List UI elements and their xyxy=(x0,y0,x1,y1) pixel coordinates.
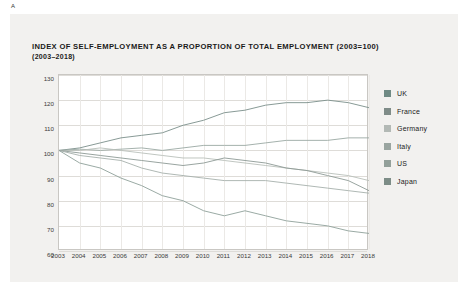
x-tick-label: 2012 xyxy=(237,252,251,259)
legend-item-us[interactable]: US xyxy=(384,160,464,167)
legend-swatch-icon xyxy=(384,90,391,97)
y-tick-label: 120 xyxy=(44,100,54,107)
x-tick-label: 2009 xyxy=(175,252,189,259)
y-tick-label: 70 xyxy=(47,225,54,232)
legend-swatch-icon xyxy=(384,178,391,185)
legend-item-japan[interactable]: Japan xyxy=(384,178,464,185)
x-tick-label: 2006 xyxy=(113,252,127,259)
x-tick-label: 2015 xyxy=(299,252,313,259)
series-layer xyxy=(59,75,369,251)
legend-item-germany[interactable]: Germany xyxy=(384,125,464,132)
chart-title: INDEX OF SELF-EMPLOYMENT AS A PROPORTION… xyxy=(32,41,432,52)
chart-subtitle: (2003–2018) xyxy=(32,53,75,60)
series-line-uk xyxy=(59,100,369,150)
figure-label: A xyxy=(11,3,15,9)
series-line-japan xyxy=(59,150,369,233)
plot-frame xyxy=(58,74,368,250)
legend-label: Japan xyxy=(397,178,417,185)
plot-area: 60708090100110120130 2003200420052006200… xyxy=(32,70,372,270)
legend-label: Italy xyxy=(397,143,411,150)
x-tick-label: 2016 xyxy=(320,252,334,259)
gridline-x xyxy=(369,75,370,249)
x-tick-label: 2007 xyxy=(134,252,148,259)
chart-legend: UKFranceGermanyItalyUSJapan xyxy=(384,90,464,195)
x-tick-label: 2003 xyxy=(51,252,65,259)
legend-label: US xyxy=(397,160,407,167)
legend-swatch-icon xyxy=(384,160,391,167)
series-line-us xyxy=(59,150,369,193)
x-tick-label: 2010 xyxy=(196,252,210,259)
y-tick-label: 80 xyxy=(47,200,54,207)
y-tick-label: 130 xyxy=(44,75,54,82)
x-tick-label: 2017 xyxy=(340,252,354,259)
series-line-germany xyxy=(59,148,369,181)
legend-swatch-icon xyxy=(384,125,391,132)
legend-label: France xyxy=(397,108,420,115)
legend-swatch-icon xyxy=(384,108,391,115)
y-tick-label: 110 xyxy=(44,125,54,132)
x-axis: 2003200420052006200720082009201020112012… xyxy=(58,250,368,264)
y-axis: 60708090100110120130 xyxy=(32,74,54,250)
legend-swatch-icon xyxy=(384,143,391,150)
x-tick-label: 2004 xyxy=(72,252,86,259)
x-tick-label: 2013 xyxy=(258,252,272,259)
y-tick-label: 100 xyxy=(44,150,54,157)
x-tick-label: 2005 xyxy=(92,252,106,259)
legend-item-italy[interactable]: Italy xyxy=(384,143,464,150)
legend-label: UK xyxy=(397,90,407,97)
legend-item-france[interactable]: France xyxy=(384,108,464,115)
y-tick-label: 90 xyxy=(47,175,54,182)
x-tick-label: 2018 xyxy=(361,252,375,259)
x-tick-label: 2011 xyxy=(217,252,230,259)
chart-panel: INDEX OF SELF-EMPLOYMENT AS A PROPORTION… xyxy=(10,14,458,282)
x-tick-label: 2008 xyxy=(154,252,168,259)
x-tick-label: 2014 xyxy=(278,252,292,259)
legend-item-uk[interactable]: UK xyxy=(384,90,464,97)
legend-label: Germany xyxy=(397,125,427,132)
